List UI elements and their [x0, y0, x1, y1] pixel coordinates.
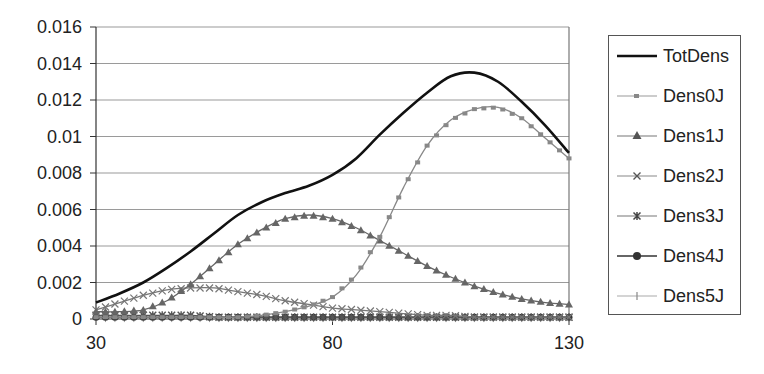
legend-item-dens5j: Dens5J [609, 276, 742, 316]
star-marker-icon [617, 209, 657, 223]
x-marker-icon [617, 169, 657, 183]
legend-item-dens1j: Dens1J [609, 116, 742, 156]
legend-label: Dens1J [663, 126, 724, 147]
triangle-marker-icon [617, 129, 657, 143]
plus-marker-icon [617, 289, 657, 303]
legend-item-dens3j: Dens3J [609, 196, 742, 236]
x-tick-label: 130 [554, 333, 584, 353]
series-dens1j [92, 212, 573, 315]
y-tick-label: 0.012 [37, 90, 82, 110]
y-tick-label: 0.004 [37, 236, 82, 256]
line-swatch-icon [617, 49, 657, 63]
legend-item-dens4j: Dens4J [609, 236, 742, 276]
y-tick-label: 0.014 [37, 54, 82, 74]
x-tick-label: 30 [86, 333, 106, 353]
legend-item-dens0j: Dens0J [609, 76, 742, 116]
y-tick-label: 0.006 [37, 200, 82, 220]
square-marker-icon [617, 89, 657, 103]
legend-label: Dens3J [663, 206, 724, 227]
y-tick-label: 0.008 [37, 163, 82, 183]
y-tick-label: 0.016 [37, 17, 82, 37]
y-tick-label: 0.002 [37, 273, 82, 293]
y-tick-label: 0.01 [47, 127, 82, 147]
legend: TotDens Dens0J Dens1J Dens2J Dens3J Dens… [608, 35, 741, 315]
legend-label: Dens0J [663, 86, 724, 107]
legend-label: TotDens [663, 46, 729, 67]
legend-item-dens2j: Dens2J [609, 156, 742, 196]
legend-item-totdens: TotDens [609, 36, 742, 76]
circle-marker-icon [617, 249, 657, 263]
x-tick-label: 80 [322, 333, 342, 353]
legend-label: Dens4J [663, 246, 724, 267]
y-tick-label: 0 [72, 309, 82, 329]
legend-label: Dens5J [663, 286, 724, 307]
legend-label: Dens2J [663, 166, 724, 187]
